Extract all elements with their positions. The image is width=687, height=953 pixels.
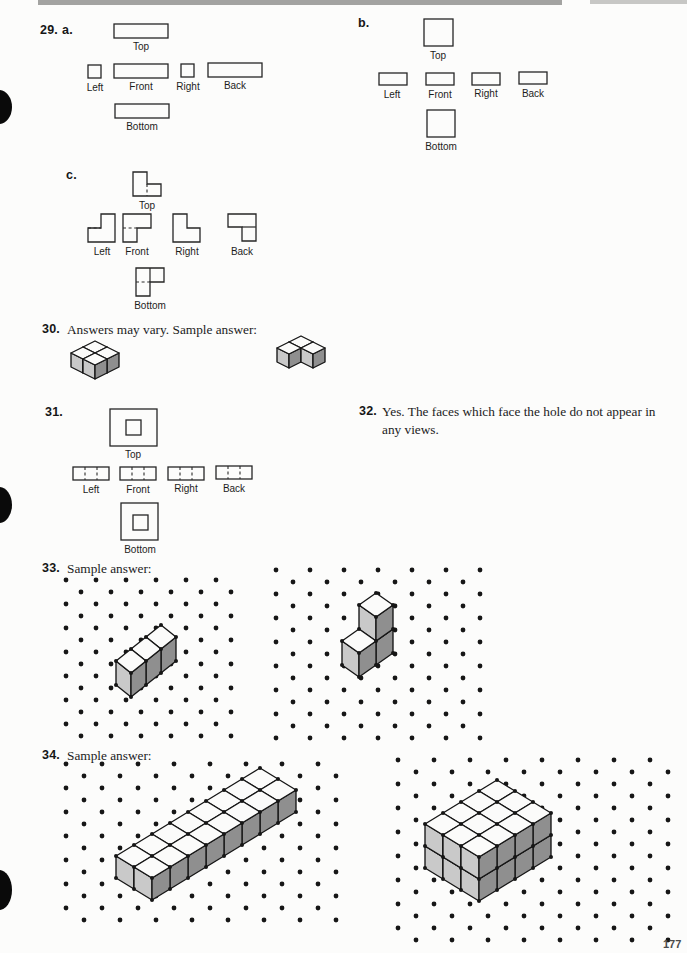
iso-dot [468, 782, 473, 787]
iso-dot [594, 770, 599, 775]
iso-dot [576, 758, 581, 763]
iso-dot [274, 664, 279, 669]
iso-dot [229, 590, 234, 595]
iso-dot [316, 834, 321, 839]
iso-dot [359, 700, 364, 705]
iso-dot [396, 806, 401, 811]
iso-dot [666, 818, 671, 823]
iso-dot [229, 662, 234, 667]
cube-vertex-dot [114, 854, 118, 858]
iso-dot [229, 686, 234, 691]
cube-vertex-dot [294, 788, 298, 792]
view-label-left: Left [94, 246, 111, 257]
iso-dot [342, 592, 347, 597]
iso-dot [280, 906, 285, 911]
iso-dot [410, 592, 415, 597]
iso-dot [325, 580, 330, 585]
iso-dot [450, 770, 455, 775]
iso-dot [414, 794, 419, 799]
top-view-inner-square [126, 420, 141, 435]
cube-vertex-dot [513, 877, 517, 881]
iso-dot [94, 698, 99, 703]
cube-vertex-dot [294, 810, 298, 814]
iso-dot [136, 906, 141, 911]
iso-dot [612, 854, 617, 859]
iso-dot [100, 810, 105, 815]
iso-dot [274, 592, 279, 597]
iso-dot [342, 736, 347, 741]
iso-dot [576, 830, 581, 835]
iso-dot [316, 858, 321, 863]
iso-dot [274, 688, 279, 693]
cube-vertex-dot [159, 623, 163, 627]
iso-dot [540, 926, 545, 931]
cube-vertex-dot [150, 876, 154, 880]
cube-vertex-dot [276, 777, 280, 781]
iso-dot [308, 736, 313, 741]
iso-dot [169, 710, 174, 715]
iso-dot [666, 842, 671, 847]
iso-dot [468, 926, 473, 931]
iso-dot [478, 592, 483, 597]
iso-dot [291, 700, 296, 705]
iso-dot [64, 834, 69, 839]
iso-dot [199, 710, 204, 715]
cube-vertex-dot [174, 659, 178, 663]
iso-dot [393, 724, 398, 729]
right-view-shape [173, 214, 200, 242]
view-label-back: Back [522, 88, 544, 99]
view-label-left: Left [384, 89, 401, 100]
iso-dot [124, 722, 129, 727]
cube-vertex-dot [114, 659, 118, 663]
cube-vertex-dot [150, 832, 154, 836]
iso-dot [298, 918, 303, 923]
iso-dot [478, 712, 483, 717]
cube-vertex-dot [258, 810, 262, 814]
view-label-front: Front [125, 246, 148, 257]
cube-vertex-dot [374, 639, 378, 643]
iso-dot [576, 926, 581, 931]
cube-vertex-dot [258, 832, 262, 836]
right-view-rect [472, 73, 500, 85]
iso-dot [190, 798, 195, 803]
iso-dot [376, 688, 381, 693]
iso-dot [298, 870, 303, 875]
iso-dot [64, 602, 69, 607]
view-label-right: Right [175, 246, 198, 257]
cube-vertex-dot [204, 865, 208, 869]
iso-dot [648, 854, 653, 859]
iso-dot [558, 938, 563, 943]
iso-dot [190, 918, 195, 923]
cube-vertex-dot [549, 855, 553, 859]
iso-dot [396, 854, 401, 859]
iso-dot [100, 834, 105, 839]
cube-vertex-dot [114, 876, 118, 880]
iso-dot [94, 626, 99, 631]
iso-dot [280, 762, 285, 767]
iso-dot [444, 688, 449, 693]
iso-dot [109, 734, 114, 739]
cube-vertex-dot [174, 635, 178, 639]
iso-dot [414, 890, 419, 895]
iso-dot [444, 616, 449, 621]
cube-vertex-dot [204, 843, 208, 847]
iso-dot [94, 602, 99, 607]
view-label-top: Top [139, 200, 155, 211]
iso-dot [226, 894, 231, 899]
cube-vertex-dot [132, 887, 136, 891]
cube-vertex-dot [159, 647, 163, 651]
iso-dot [444, 664, 449, 669]
iso-dot [393, 676, 398, 681]
top-view-rect [424, 19, 453, 46]
iso-dot [118, 798, 123, 803]
iso-dot [169, 614, 174, 619]
iso-dot [376, 712, 381, 717]
iso-dot [226, 774, 231, 779]
iso-dot [124, 698, 129, 703]
iso-dot [334, 918, 339, 923]
iso-dot [478, 640, 483, 645]
iso-dot [214, 650, 219, 655]
left-view-rect [73, 467, 109, 480]
iso-dot [79, 734, 84, 739]
iso-dot [172, 786, 177, 791]
